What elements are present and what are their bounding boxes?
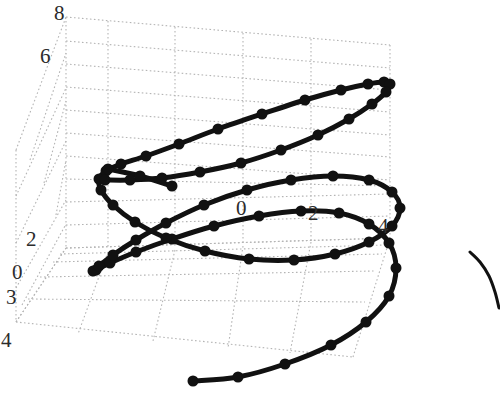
data-point-marker — [257, 109, 268, 120]
data-point-marker — [130, 217, 141, 228]
data-point-marker — [364, 237, 375, 248]
grid-lines — [16, 17, 390, 357]
data-point-marker — [167, 181, 178, 192]
z-tick-2: 2 — [26, 229, 37, 250]
data-point-marker — [344, 114, 355, 125]
data-point-marker — [326, 340, 337, 351]
data-point-marker — [242, 185, 253, 196]
y-tick-3: 3 — [6, 287, 17, 308]
data-point-marker — [116, 159, 127, 170]
data-point-marker — [195, 167, 206, 178]
data-point-marker — [199, 200, 210, 211]
x-tick-2: 2 — [308, 203, 319, 224]
data-point-marker — [363, 79, 374, 90]
data-point-marker — [313, 130, 324, 141]
plot-canvas — [0, 0, 500, 394]
data-point-marker — [336, 85, 347, 96]
z-tick-0: 0 — [12, 262, 23, 283]
data-point-marker — [108, 250, 119, 261]
data-point-marker — [300, 95, 311, 106]
helix-curve-layer — [88, 77, 500, 387]
data-point-marker — [213, 124, 224, 135]
data-point-marker — [361, 317, 372, 328]
data-point-marker — [364, 175, 375, 186]
data-point-marker — [200, 246, 211, 257]
data-point-marker — [328, 171, 339, 182]
data-point-marker — [364, 219, 375, 230]
data-point-marker — [108, 200, 119, 211]
data-point-marker — [233, 372, 244, 383]
data-point-marker — [135, 171, 146, 182]
data-point-marker — [131, 247, 142, 258]
data-point-marker — [131, 235, 142, 246]
data-point-marker — [125, 175, 136, 186]
plot-figure: 8 6 2 0 3 4 0 2 4 — [0, 0, 500, 394]
y-tick-4: 4 — [1, 330, 12, 351]
data-point-marker — [209, 221, 220, 232]
data-point-marker — [387, 187, 398, 198]
data-point-marker — [157, 173, 168, 184]
data-point-marker — [188, 376, 199, 387]
data-point-marker — [330, 249, 341, 260]
data-point-marker — [276, 145, 287, 156]
data-point-marker — [236, 158, 247, 169]
data-point-marker — [395, 203, 406, 214]
data-point-marker — [296, 206, 307, 217]
data-point-marker — [244, 254, 255, 265]
data-point-marker — [161, 233, 172, 244]
helix-markers — [88, 77, 406, 387]
data-point-marker — [286, 175, 297, 186]
data-point-marker — [161, 218, 172, 229]
data-point-marker — [100, 175, 111, 186]
data-point-marker — [254, 211, 265, 222]
z-tick-6: 6 — [40, 46, 51, 67]
data-point-marker — [94, 261, 105, 272]
clipped-arc — [470, 252, 499, 308]
data-point-marker — [141, 151, 152, 162]
data-point-marker — [384, 238, 395, 249]
data-point-marker — [289, 255, 300, 266]
data-point-marker — [334, 208, 345, 219]
data-point-marker — [96, 185, 107, 196]
data-point-marker — [174, 139, 185, 150]
data-point-marker — [103, 164, 114, 175]
data-point-marker — [381, 87, 392, 98]
data-point-marker — [391, 263, 402, 274]
z-tick-8: 8 — [54, 3, 65, 24]
helix-line — [93, 82, 400, 381]
x-tick-4: 4 — [378, 216, 389, 237]
x-tick-0: 0 — [236, 198, 247, 219]
data-point-marker — [367, 99, 378, 110]
data-point-marker — [384, 291, 395, 302]
data-point-marker — [280, 359, 291, 370]
